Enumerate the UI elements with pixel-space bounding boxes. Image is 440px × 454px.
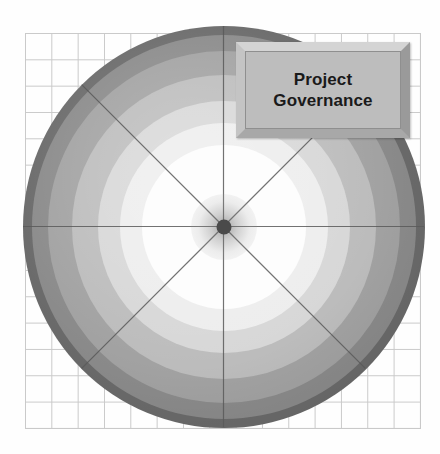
ring-1 [142, 145, 306, 309]
callout-title-line-1: Project [294, 69, 352, 90]
figure-canvas: Project Governance [0, 0, 440, 454]
callout-box[interactable]: Project Governance [236, 42, 410, 138]
callout-title-line-2: Governance [273, 90, 372, 111]
callout-face: Project Governance [245, 51, 401, 129]
